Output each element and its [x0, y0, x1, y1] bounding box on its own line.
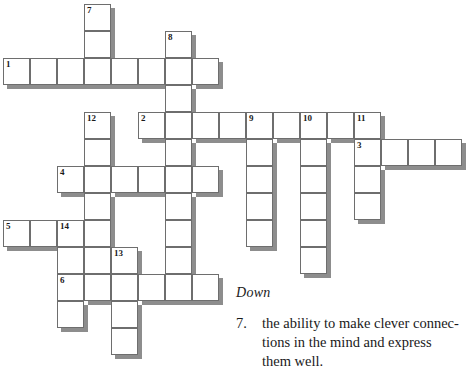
crossword-cell[interactable]: 4 [57, 166, 84, 193]
cell-shadow [7, 85, 34, 89]
crossword-cell[interactable] [165, 274, 192, 301]
cell-shadow [196, 85, 223, 89]
cell-shadow [192, 197, 196, 224]
crossword-cell[interactable] [300, 247, 327, 274]
crossword-cell[interactable] [138, 166, 165, 193]
crossword-cell[interactable] [111, 58, 138, 85]
crossword-cell[interactable] [165, 112, 192, 139]
cell-shadow [34, 85, 61, 89]
crossword-cell[interactable] [111, 274, 138, 301]
crossword-cell[interactable] [84, 247, 111, 274]
crossword-cell[interactable] [84, 166, 111, 193]
crossword-cell[interactable] [300, 193, 327, 220]
crossword-cell[interactable] [165, 139, 192, 166]
crossword-cell[interactable]: 1 [3, 58, 30, 85]
crossword-cell[interactable]: 14 [57, 220, 84, 247]
crossword-cell[interactable]: 7 [84, 4, 111, 31]
crossword-cell[interactable] [165, 58, 192, 85]
crossword-cell[interactable] [138, 58, 165, 85]
crossword-cell[interactable] [354, 193, 381, 220]
crossword-cell[interactable] [30, 58, 57, 85]
cell-shadow [327, 143, 331, 170]
crossword-cell[interactable] [84, 31, 111, 58]
crossword-cell[interactable] [192, 58, 219, 85]
cell-shadow [196, 139, 223, 143]
crossword-cell[interactable] [165, 193, 192, 220]
cell-clue-number: 9 [249, 113, 254, 124]
crossword-cell[interactable] [246, 220, 273, 247]
crossword-cell[interactable] [111, 166, 138, 193]
cell-clue-number: 8 [168, 32, 173, 43]
crossword-cell[interactable] [165, 166, 192, 193]
cell-shadow [439, 166, 466, 170]
crossword-cell[interactable] [435, 139, 462, 166]
crossword-cell[interactable] [84, 58, 111, 85]
crossword-cell[interactable]: 10 [300, 112, 327, 139]
crossword-cell[interactable] [165, 220, 192, 247]
crossword-cell[interactable] [246, 193, 273, 220]
crossword-cell[interactable] [246, 166, 273, 193]
crossword-cell[interactable]: 12 [84, 112, 111, 139]
crossword-cell[interactable] [111, 301, 138, 328]
crossword-cell[interactable] [111, 328, 138, 355]
crossword-cell[interactable] [138, 274, 165, 301]
cell-shadow [304, 274, 331, 278]
clue-item: 7.the ability to make clever connec­tion… [236, 314, 461, 371]
cell-clue-number: 13 [114, 248, 123, 259]
crossword-cell[interactable] [57, 301, 84, 328]
crossword-cell[interactable] [408, 139, 435, 166]
clue-number: 7. [236, 314, 247, 333]
crossword-cell[interactable] [354, 166, 381, 193]
crossword-cell[interactable] [273, 112, 300, 139]
clue-list: 7.the ability to make clever connec­tion… [236, 314, 461, 371]
crossword-cell[interactable] [192, 166, 219, 193]
cell-clue-number: 2 [141, 113, 146, 124]
cell-clue-number: 4 [60, 167, 65, 178]
crossword-cell[interactable] [327, 112, 354, 139]
crossword-cell[interactable] [84, 139, 111, 166]
crossword-cell[interactable] [381, 139, 408, 166]
cell-clue-number: 12 [87, 113, 96, 124]
cell-clue-number: 5 [6, 221, 11, 232]
cell-shadow [115, 355, 142, 359]
crossword-cell[interactable]: 6 [57, 274, 84, 301]
crossword-cell[interactable]: 11 [354, 112, 381, 139]
cell-shadow [358, 220, 385, 224]
crossword-cell[interactable] [84, 220, 111, 247]
crossword-cell[interactable] [165, 247, 192, 274]
crossword-cell[interactable] [84, 193, 111, 220]
crossword-cell[interactable]: 13 [111, 247, 138, 274]
cell-shadow [273, 143, 277, 170]
cell-clue-number: 6 [60, 275, 65, 286]
crossword-cell[interactable]: 8 [165, 31, 192, 58]
crossword-cell[interactable] [84, 274, 111, 301]
cell-shadow [115, 193, 142, 197]
crossword-cell[interactable]: 3 [354, 139, 381, 166]
clues-panel: Down 7.the ability to make clever connec… [236, 284, 461, 371]
crossword-cell[interactable] [30, 220, 57, 247]
crossword-cell[interactable] [165, 85, 192, 112]
cell-shadow [61, 85, 88, 89]
cell-shadow [196, 193, 223, 197]
crossword-cell[interactable] [300, 139, 327, 166]
crossword-cell[interactable] [300, 220, 327, 247]
cell-shadow [192, 224, 196, 251]
crossword-cell[interactable] [57, 247, 84, 274]
crossword-cell[interactable] [192, 274, 219, 301]
crossword-cell[interactable]: 2 [138, 112, 165, 139]
cell-shadow [61, 328, 88, 332]
crossword-cell[interactable] [192, 112, 219, 139]
crossword-cell[interactable] [219, 112, 246, 139]
cell-shadow [250, 247, 277, 251]
crossword-cell[interactable] [57, 58, 84, 85]
crossword-cell[interactable] [246, 139, 273, 166]
cell-shadow [88, 85, 115, 89]
crossword-cell[interactable]: 9 [246, 112, 273, 139]
cell-clue-number: 14 [60, 221, 69, 232]
crossword-cell[interactable]: 5 [3, 220, 30, 247]
crossword-cell[interactable] [300, 166, 327, 193]
cell-clue-number: 7 [87, 5, 92, 16]
clues-heading-down: Down [236, 284, 461, 302]
cell-shadow [412, 166, 439, 170]
